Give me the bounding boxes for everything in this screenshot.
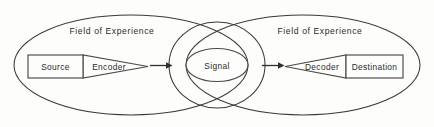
source-label: Source bbox=[41, 62, 70, 72]
schramm-communication-diagram: Field of Experience Field of Experience … bbox=[0, 0, 434, 127]
signal-label: Signal bbox=[204, 61, 229, 71]
encoder-label: Encoder bbox=[92, 62, 126, 72]
left-field-label: Field of Experience bbox=[70, 26, 155, 36]
destination-label: Destination bbox=[352, 62, 398, 72]
decoder-label: Decoder bbox=[305, 62, 339, 72]
right-field-label: Field of Experience bbox=[278, 26, 363, 36]
diagram-canvas: Field of Experience Field of Experience … bbox=[0, 0, 434, 127]
